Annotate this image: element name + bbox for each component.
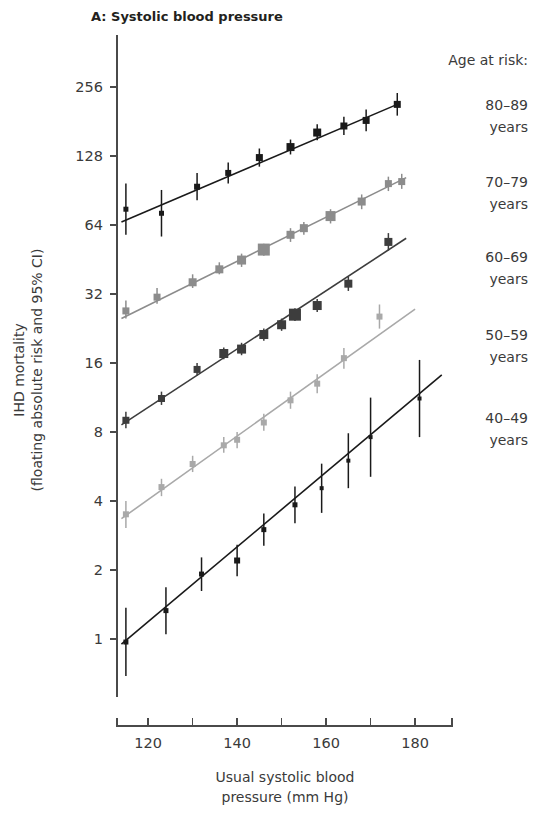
legend-item-unit: years [489,119,528,135]
data-point-marker [158,484,164,490]
data-point-marker [376,314,382,320]
data-point-marker [237,345,246,354]
x-axis-tick-label: 160 [312,735,340,751]
data-point-marker [314,381,320,387]
legend-item-range: 50–59 [485,327,528,343]
legend-item-unit: years [489,196,528,212]
data-point-marker [123,207,128,212]
x-axis-title-line2: pressure (mm Hg) [222,789,349,805]
data-point-marker [341,355,347,361]
data-point-marker [256,154,263,161]
page-title: A: Systolic blood pressure [91,9,283,24]
data-point-marker [163,608,168,613]
data-point-marker [123,511,129,517]
data-point-marker [190,461,196,467]
data-point-marker [159,211,164,216]
y-axis-tick-label: 128 [75,148,103,164]
data-point-marker [123,640,128,645]
y-axis-tick-label: 4 [94,493,103,509]
y-axis-tick-label: 1 [94,631,103,647]
data-point-marker [261,420,267,426]
legend-heading: Age at risk: [448,52,528,68]
data-point-marker [292,502,297,507]
data-point-marker [418,397,422,401]
data-point-marker [398,178,405,185]
data-point-marker [289,309,301,321]
data-point-marker [344,280,352,288]
data-point-marker [215,265,223,273]
data-point-marker [313,301,322,310]
data-point-marker [221,442,227,448]
data-point-marker [277,320,286,329]
y-axis-tick-label: 16 [85,355,103,371]
data-point-marker [259,330,268,339]
chart-background [0,0,534,819]
y-axis-tick-label: 64 [85,217,103,233]
legend-item-unit: years [489,271,528,287]
data-point-marker [154,294,161,301]
data-point-marker [340,123,347,130]
legend-item-unit: years [489,349,528,365]
legend-item-range: 80–89 [485,97,528,113]
data-point-marker [326,211,336,221]
data-point-marker [300,224,308,232]
data-point-marker [358,198,366,206]
data-point-marker [237,256,246,265]
y-axis-tick-label: 32 [85,286,103,302]
data-point-marker [287,231,295,239]
legend-item-range: 40–49 [485,410,528,426]
data-point-marker [394,101,401,108]
data-point-marker [369,435,373,439]
data-point-marker [158,395,165,402]
x-axis-title-line1: Usual systolic blood [216,769,355,785]
data-point-marker [363,117,370,124]
data-point-marker [189,278,197,286]
y-axis-title-line2: (floating absolute risk and 95% CI) [29,249,45,492]
y-axis-title-line1: IHD mortality [11,323,27,416]
data-point-marker [194,366,201,373]
x-axis-tick-label: 180 [401,735,429,751]
x-axis-tick-label: 140 [223,735,251,751]
y-axis-tick-label: 2 [94,562,103,578]
data-point-marker [194,184,200,190]
x-axis-tick-label: 120 [134,735,162,751]
data-point-marker [287,143,295,151]
data-point-marker [320,486,324,490]
data-point-marker [199,572,204,577]
data-point-marker [219,349,228,358]
data-point-marker [313,129,321,137]
data-point-marker [234,437,240,443]
ihd-mortality-chart: A: Systolic blood pressure 1248163264128… [0,0,534,819]
legend-item-range: 60–69 [485,249,528,265]
data-point-marker [234,558,240,564]
y-axis-tick-label: 256 [75,79,103,95]
y-axis-tick-label: 8 [94,424,103,440]
data-point-marker [225,170,231,176]
legend-item-range: 70–79 [485,174,528,190]
data-point-marker [384,238,392,246]
data-point-marker [385,180,392,187]
data-point-marker [258,244,270,256]
data-point-marker [122,307,129,314]
data-point-marker [346,459,350,463]
data-point-marker [122,417,129,424]
legend-item-unit: years [489,432,528,448]
data-point-marker [261,527,266,532]
data-point-marker [288,397,294,403]
